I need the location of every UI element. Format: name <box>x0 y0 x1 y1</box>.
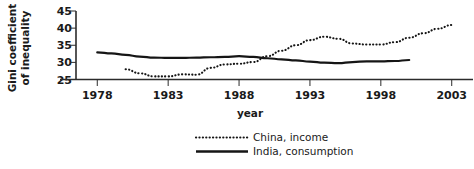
y-tick-label-40: 40 <box>57 22 73 35</box>
x-tick-label-1988: 1988 <box>224 89 255 102</box>
y-axis-title-line1: Gini coefficient <box>6 4 18 93</box>
chart-legend: China, incomeIndia, consumption <box>196 131 353 157</box>
x-tick-label-1983: 1983 <box>153 89 184 102</box>
y-axis-title-line2: of inequality <box>19 10 31 85</box>
series-line-india-consumption <box>97 52 409 63</box>
y-tick-label-35: 35 <box>57 39 72 52</box>
y-tick-label-45: 45 <box>57 5 72 18</box>
series-line-china-income <box>126 25 452 76</box>
x-axis-tick-labels: 197819831988199319982003 <box>82 89 467 102</box>
x-tick-label-1993: 1993 <box>295 89 326 102</box>
y-tick-label-30: 30 <box>57 56 73 69</box>
x-tick-label-1978: 1978 <box>82 89 113 102</box>
legend-label-india-consumption: India, consumption <box>253 145 353 157</box>
series-layer <box>97 25 451 76</box>
y-axis-tick-labels: 2530354045 <box>57 5 73 87</box>
chart-figure: Gini coefficient of inequality 253035404… <box>0 0 474 169</box>
x-tick-label-2003: 2003 <box>436 89 467 102</box>
gini-coefficient-line-chart: Gini coefficient of inequality 253035404… <box>0 0 474 169</box>
legend-label-china-income: China, income <box>253 131 328 143</box>
x-axis-tick-marks <box>97 80 451 87</box>
y-axis-title: Gini coefficient of inequality <box>6 4 31 93</box>
x-axis-title: year <box>237 107 264 119</box>
x-tick-label-1998: 1998 <box>366 89 397 102</box>
